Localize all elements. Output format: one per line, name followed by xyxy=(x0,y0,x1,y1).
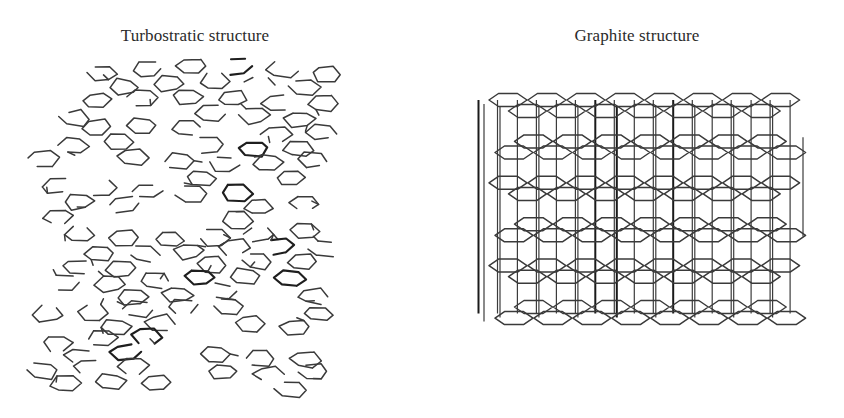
interlayer-lines xyxy=(479,100,804,322)
turbostratic-layers xyxy=(27,59,340,398)
graphite-layers xyxy=(479,94,806,325)
turbostratic-structure-drawing xyxy=(0,0,400,418)
graphite-panel: Graphite structure xyxy=(430,0,844,418)
graphite-structure-drawing xyxy=(430,0,844,418)
turbostratic-panel: Turbostratic structure xyxy=(0,0,400,418)
